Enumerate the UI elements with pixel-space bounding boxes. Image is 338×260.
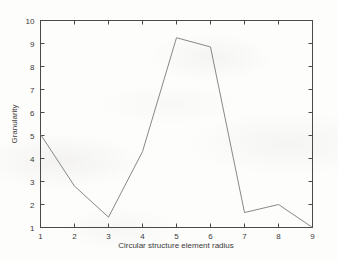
y-axis-title: Granularity: [10, 104, 19, 143]
y-tick-label: 1: [30, 224, 35, 233]
y-axis-ticks: [41, 21, 313, 228]
y-tick-label: 4: [30, 155, 35, 164]
y-tick-label: 8: [30, 63, 35, 72]
y-tick-label: 5: [30, 132, 35, 141]
x-tick-label: 8: [276, 232, 281, 241]
x-tick-label: 3: [106, 232, 111, 241]
x-tick-label: 7: [242, 232, 247, 241]
x-tick-label: 6: [208, 232, 213, 241]
x-tick-label: 1: [38, 232, 43, 241]
y-axis-tick-labels: 12345678910: [26, 17, 35, 233]
y-tick-label: 7: [30, 86, 35, 95]
x-axis-tick-labels: 123456789: [38, 232, 315, 241]
line-chart: 12345678910 123456789 Circular structure…: [0, 0, 338, 260]
plot-axes-frame: [41, 21, 313, 228]
x-tick-label: 4: [140, 232, 145, 241]
x-tick-label: 5: [174, 232, 179, 241]
x-tick-label: 9: [310, 232, 315, 241]
figure-canvas: 12345678910 123456789 Circular structure…: [0, 0, 338, 260]
y-tick-label: 9: [30, 40, 35, 49]
y-tick-label: 6: [30, 109, 35, 118]
granularity-data-line: [41, 38, 313, 228]
x-axis-ticks: [41, 21, 313, 228]
y-tick-label: 2: [30, 201, 35, 210]
y-tick-label: 10: [26, 17, 35, 26]
y-tick-label: 3: [30, 178, 35, 187]
x-tick-label: 2: [72, 232, 77, 241]
x-axis-title: Circular structure element radius: [118, 241, 234, 250]
